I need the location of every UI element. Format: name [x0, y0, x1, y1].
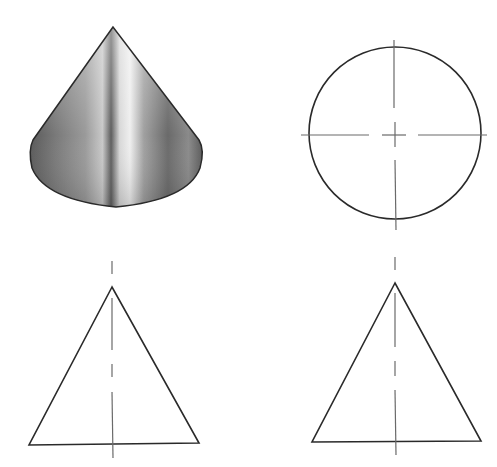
shaded-cone [30, 27, 202, 207]
front-view-triangle [29, 261, 199, 458]
side-centerline [395, 257, 396, 455]
front-centerline [112, 261, 113, 458]
top-view-circle [301, 40, 487, 230]
triangle-outline [29, 287, 199, 445]
side-view-triangle [312, 257, 481, 455]
triangle-outline [312, 283, 481, 442]
cone-orthographic-drawing [0, 0, 497, 467]
